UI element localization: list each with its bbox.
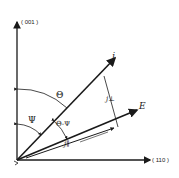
axis-001-label: ( 001 )	[21, 19, 38, 25]
vector-diagram	[0, 0, 179, 178]
j-perpendicular-label: j⊥	[106, 96, 115, 103]
j-label: j	[112, 52, 115, 61]
theta-label: Θ	[56, 91, 63, 100]
psi-label: Ψ	[28, 116, 36, 125]
e-label: E	[139, 102, 146, 111]
psi-arc	[17, 124, 41, 135]
theta-minus-psi-label: Θ-Ψ	[56, 121, 70, 128]
j-parallel-arrow	[26, 128, 114, 158]
j-parallel-label: j∥	[64, 141, 69, 148]
j-parallel-dimension	[80, 132, 108, 142]
origin-mark	[14, 161, 18, 165]
axis-110-label: ( 110 )	[152, 157, 169, 163]
